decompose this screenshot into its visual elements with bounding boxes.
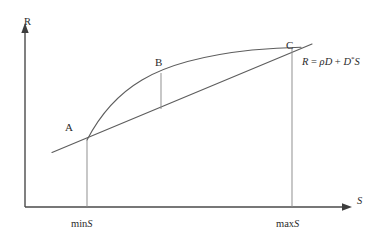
diagram-svg [0, 0, 384, 246]
x-tick-max-symbol: S [294, 218, 299, 229]
x-tick-min-symbol: S [87, 218, 92, 229]
equation-d-second: D [343, 56, 351, 67]
equation-s-symbol: S [355, 56, 360, 67]
x-tick-label-min: minS [71, 219, 93, 230]
point-label-a: A [65, 122, 73, 133]
equation-equals: = [308, 56, 319, 67]
point-label-c: C [286, 40, 293, 51]
x-axis-label: S [357, 196, 362, 207]
curve-equation-label: R = ρD + D*S [302, 57, 360, 68]
point-label-b: B [155, 57, 162, 68]
x-tick-min-prefix: min [71, 218, 87, 229]
y-axis-label: R [24, 17, 31, 28]
chord-line [52, 44, 312, 153]
equation-plus: + [332, 56, 343, 67]
figure-canvas: R S A B C minS maxS R = ρD + D*S [0, 0, 384, 246]
x-axis-arrow-icon [342, 203, 352, 210]
x-tick-max-prefix: max [276, 218, 294, 229]
x-tick-label-max: maxS [276, 219, 299, 230]
